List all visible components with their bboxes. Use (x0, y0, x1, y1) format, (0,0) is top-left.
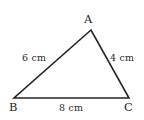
side-length-label-ab: 6 cm (22, 53, 46, 63)
triangle-outline-shape (14, 30, 129, 98)
vertex-label-c: C (124, 102, 133, 114)
triangle-figure: A B C 6 cm 4 cm 8 cm (0, 0, 144, 120)
side-length-label-ac: 4 cm (110, 53, 134, 63)
side-length-label-bc: 8 cm (59, 103, 83, 113)
vertex-label-b: B (9, 102, 17, 114)
vertex-label-a: A (84, 14, 92, 26)
